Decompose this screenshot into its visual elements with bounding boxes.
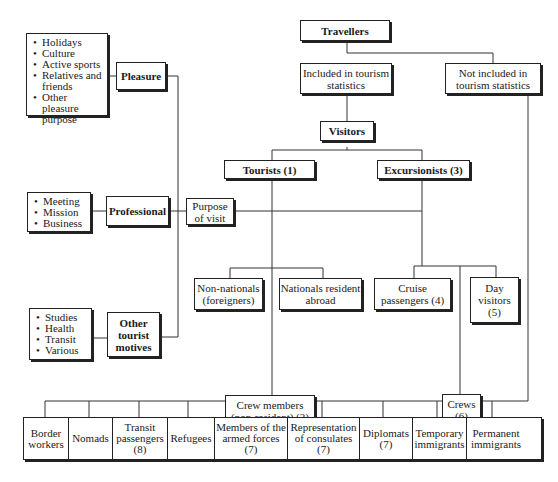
diplomats-cell: Diplomats (7) [360,418,413,459]
included-label: Included in tourism statistics [301,67,391,91]
included-node: Included in tourism statistics [300,63,392,94]
nationals-resident-abroad-label: Nationals resident abroad [280,282,361,306]
other-tourist-motives-label: Other tourist motives [110,317,157,353]
nomads-label: Nomads [72,433,109,444]
visitors-node: Visitors [320,121,374,141]
pleasure-items-list: Holidays Culture Active sports Relatives… [26,33,108,116]
visitors-label: Visitors [329,125,365,137]
purpose-of-visit-node: Purpose of visit [186,198,234,225]
excursionists-label: Excursionists (3) [384,164,463,176]
cruise-passengers-label: Cruise passengers (4) [379,282,446,306]
diplomats-label: Diplomats (7) [361,428,411,450]
consulates-cell: Representation of consulates (7) [288,418,360,459]
travellers-label: Travellers [321,25,368,37]
not-included-node: Not included in tourism statistics [445,63,541,94]
armed-forces-label: Members of the armed forces (7) [216,422,286,455]
border-workers-cell: Border workers [24,418,69,459]
temporary-immigrants-label: Temporary immigrants [414,428,465,450]
other-motives-items-list: Studies Health Transit Various [29,308,92,360]
border-workers-label: Border workers [25,428,67,450]
day-visitors-label: Day visitors (5) [477,282,512,318]
nationals-resident-abroad-node: Nationals resident abroad [279,278,362,310]
day-visitors-node: Day visitors (5) [470,277,519,323]
professional-label: Professional [109,205,166,217]
refugees-cell: Refugees [168,418,215,459]
transit-passengers-cell: Transit passengers (8) [113,418,168,459]
purpose-of-visit-label: Purpose of visit [187,200,233,224]
armed-forces-cell: Members of the armed forces (7) [215,418,288,459]
tourists-label: Tourists (1) [243,164,297,176]
list-item: Relatives and friends [33,70,103,92]
refugees-label: Refugees [171,433,212,444]
list-item: Business [34,218,86,229]
nomads-cell: Nomads [69,418,113,459]
non-nationals-label: Non-nationals (foreigners) [195,282,262,306]
permanent-immigrants-cell: Permanent immigrants [467,418,525,459]
other-tourist-motives-node: Other tourist motives [107,312,160,357]
pleasure-label: Pleasure [121,70,161,82]
temporary-immigrants-cell: Temporary immigrants [413,418,467,459]
professional-items-list: Meeting Mission Business [27,192,91,232]
tourists-node: Tourists (1) [224,160,315,179]
excursionists-node: Excursionists (3) [377,160,470,179]
not-included-label: Not included in tourism statistics [446,67,540,91]
list-item: Various [36,345,87,356]
consulates-label: Representation of consulates (7) [289,422,358,455]
list-item: Other pleasure purpose [33,92,103,125]
permanent-immigrants-label: Permanent immigrants [468,428,524,450]
cruise-passengers-node: Cruise passengers (4) [374,278,451,310]
non-nationals-node: Non-nationals (foreigners) [194,278,263,310]
professional-node: Professional [106,196,169,226]
not-included-categories-row: Border workers Nomads Transit passengers… [23,417,542,460]
pleasure-node: Pleasure [116,62,166,90]
transit-passengers-label: Transit passengers (8) [114,422,166,455]
travellers-node: Travellers [300,20,390,41]
